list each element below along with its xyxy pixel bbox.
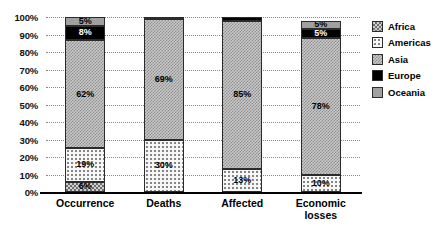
legend-swatch-icon [372,70,383,81]
bar-segment[interactable] [222,17,262,21]
y-axis-tick-label: 90% [20,29,38,40]
legend-swatch-icon [372,21,383,32]
legend-swatch-icon [372,54,383,65]
bar-segment[interactable]: 8% [65,26,105,40]
legend-item-label: Oceania [388,87,425,98]
bar-column[interactable]: 10%78%5%5% [301,17,341,192]
bar-segment[interactable]: 5% [301,29,341,38]
y-axis-tick-label: 50% [20,99,38,110]
stacked-bar-chart: 0%10%20%30%40%50%60%70%80%90%100% 6%19%6… [0,0,437,230]
legend-item[interactable]: Oceania [372,84,434,101]
legend-item[interactable]: Asia [372,51,434,68]
bar-segment[interactable]: 78% [301,38,341,175]
legend-swatch-icon [372,37,383,48]
y-axis-tick-label: 70% [20,64,38,75]
y-axis-tick-label: 20% [20,152,38,163]
y-axis: 0%10%20%30%40%50%60%70%80%90%100% [0,17,42,192]
bar-segment-label: 5% [314,29,327,38]
bar-segment[interactable]: 19% [65,148,105,181]
bar-segment[interactable]: 30% [144,140,184,193]
bar-segment[interactable]: 62% [65,40,105,149]
bar-segment-label: 78% [312,102,330,111]
legend-item-label: Europe [388,70,421,81]
bar-segment[interactable]: 13% [222,169,262,192]
y-axis-tick-label: 60% [20,82,38,93]
bars-layer: 6%19%62%8%5%30%69%13%85%10%78%5%5% [46,17,360,192]
y-axis-tick-label: 10% [20,169,38,180]
bar-segment[interactable]: 69% [144,19,184,140]
legend-item[interactable]: Americas [372,35,434,52]
plot-area: 6%19%62%8%5%30%69%13%85%10%78%5%5% [46,17,360,192]
y-axis-tick-label: 80% [20,47,38,58]
bar-segment[interactable]: 5% [301,21,341,30]
x-axis-labels: OccurrenceDeathsAffectedEconomiclosses [46,197,360,230]
x-axis-line [40,192,362,194]
legend-item-label: Asia [388,54,408,65]
legend-swatch-icon [372,87,383,98]
bar-segment[interactable]: 85% [222,21,262,170]
bar-segment-label: 5% [79,17,92,26]
legend-item[interactable]: Europe [372,68,434,85]
legend-item-label: Americas [388,37,431,48]
y-axis-tick-label: 100% [15,12,39,23]
bar-segment[interactable] [144,17,184,19]
bar-segment-label: 10% [312,179,330,188]
y-axis-tick-label: 0% [25,187,38,198]
legend-item[interactable]: Africa [372,18,434,35]
bar-segment-label: 5% [314,21,327,30]
bar-segment-label: 19% [76,160,94,169]
bar-column[interactable]: 13%85% [222,17,262,192]
bar-segment-label: 85% [233,90,251,99]
bar-segment-label: 30% [155,161,173,170]
bar-segment-label: 8% [79,28,92,37]
bar-segment[interactable]: 10% [301,175,341,193]
bar-segment[interactable]: 6% [65,182,105,193]
bar-segment-label: 13% [233,176,251,185]
bar-segment-label: 69% [155,75,173,84]
bar-segment[interactable]: 5% [65,17,105,26]
legend-item-label: Africa [388,21,415,32]
legend: AfricaAmericasAsiaEuropeOceania [372,18,434,101]
bar-column[interactable]: 6%19%62%8%5% [65,17,105,192]
bar-segment-label: 6% [79,182,92,191]
bar-column[interactable]: 30%69% [144,17,184,192]
bar-segment-label: 62% [76,90,94,99]
y-axis-tick-label: 30% [20,134,38,145]
y-axis-tick-label: 40% [20,117,38,128]
x-axis-category-label: Economiclosses [273,197,369,221]
